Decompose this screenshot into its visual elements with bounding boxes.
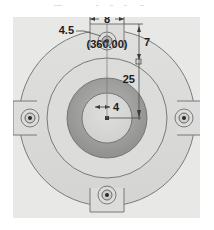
bottom-bolt-hole-center-mark	[105, 193, 109, 197]
right-bolt-hole-center-mark	[182, 116, 186, 120]
scan-artifact-1	[54, 5, 62, 6]
dimension-lug-width: 8	[90, 13, 124, 25]
left-lug	[13, 101, 39, 135]
right-lug	[175, 101, 201, 135]
dimension-lug-width-text: 8	[104, 13, 110, 25]
bottom-lug	[90, 186, 124, 212]
cad-drawing-screenshot: 8 4.5 (360.00) 7	[0, 0, 214, 230]
dimension-bolt-hole-dia-text: 4.5	[59, 24, 74, 36]
scan-artifact-4	[124, 5, 127, 6]
scan-artifact-2	[96, 5, 99, 6]
dimension-edge-distance-text: 7	[144, 36, 150, 48]
scan-artifact-5	[140, 5, 144, 6]
cad-drawing-svg: 8 4.5 (360.00) 7	[0, 0, 214, 230]
dimension-bolt-circle-radius-text: 25	[123, 73, 135, 85]
scan-artifact-3	[110, 5, 113, 6]
left-bolt-hole-center-mark	[28, 116, 32, 120]
dimension-bore-dia-text: 4	[113, 101, 120, 113]
